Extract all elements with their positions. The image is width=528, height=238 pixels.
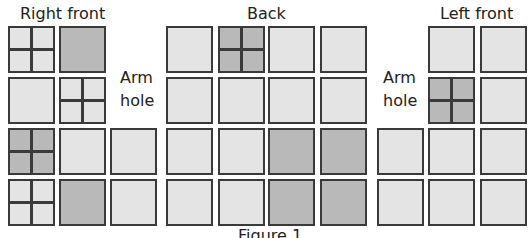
- quartered-square: [8, 26, 55, 73]
- quartered-square: [59, 77, 106, 124]
- square-divider-horizontal: [430, 99, 473, 102]
- square: [218, 128, 265, 175]
- square: [377, 128, 424, 175]
- square: [480, 128, 527, 175]
- square: [320, 128, 367, 175]
- armhole-right-line1: Arm: [383, 66, 417, 89]
- square: [110, 179, 157, 226]
- square: [8, 77, 55, 124]
- square: [59, 26, 106, 73]
- square: [110, 128, 157, 175]
- square-divider-horizontal: [220, 48, 263, 51]
- armhole-left-line2: hole: [120, 89, 154, 112]
- back-title: Back: [247, 5, 286, 23]
- left-front-title: Left front: [440, 5, 513, 23]
- armhole-left-line1: Arm: [120, 66, 154, 89]
- square: [320, 77, 367, 124]
- square: [377, 179, 424, 226]
- square: [268, 179, 315, 226]
- quartered-square: [8, 179, 55, 226]
- square-divider-horizontal: [10, 150, 53, 153]
- square: [218, 77, 265, 124]
- square: [166, 26, 213, 73]
- square: [268, 26, 315, 73]
- square-divider-horizontal: [10, 201, 53, 204]
- armhole-right-line2: hole: [383, 89, 417, 112]
- square: [320, 179, 367, 226]
- square-divider-horizontal: [61, 99, 104, 102]
- quartered-square: [8, 128, 55, 175]
- square: [480, 77, 527, 124]
- square: [428, 179, 475, 226]
- right-front-title: Right front: [20, 5, 105, 23]
- square: [218, 179, 265, 226]
- armhole-label-right: Arm hole: [383, 66, 417, 112]
- square: [166, 128, 213, 175]
- armhole-label-left: Arm hole: [120, 66, 154, 112]
- square: [268, 77, 315, 124]
- square: [480, 179, 527, 226]
- quartered-square: [218, 26, 265, 73]
- square: [166, 77, 213, 124]
- square: [428, 128, 475, 175]
- square: [166, 179, 213, 226]
- square: [320, 26, 367, 73]
- figure-caption: Figure 1: [238, 226, 302, 238]
- square: [59, 179, 106, 226]
- quartered-square: [428, 77, 475, 124]
- square-divider-horizontal: [10, 48, 53, 51]
- square: [480, 26, 527, 73]
- square: [59, 128, 106, 175]
- square: [268, 128, 315, 175]
- square: [428, 26, 475, 73]
